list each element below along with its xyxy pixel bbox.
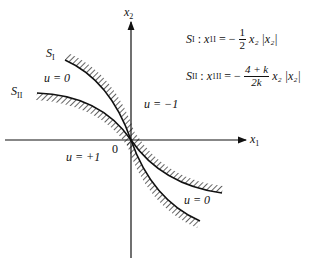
- curve-label-s1: SI: [46, 47, 55, 62]
- curve-label-s2: SII: [11, 85, 22, 100]
- x1-axis-label: x1: [250, 133, 259, 148]
- fraction-one-half: 1 2: [239, 27, 247, 51]
- origin-label: 0: [112, 143, 118, 155]
- region-label-u-minus-one: u = −1: [144, 98, 178, 110]
- phase-plane-diagram: [0, 0, 333, 269]
- fraction-4k-over-2k: 4 + k 2k: [244, 64, 269, 88]
- s2-lower-hatch: [131, 134, 223, 193]
- region-label-u-zero-lower: u = 0: [184, 194, 210, 206]
- region-label-u-zero-upper: u = 0: [44, 72, 70, 84]
- x2-axis-label: x2: [124, 6, 133, 21]
- formula-s2: SII : x1II = − 4 + k 2k x₂ |x₂|: [186, 64, 301, 88]
- formula-s1: SI : x1I = − 1 2 x₂ |x₂|: [186, 27, 278, 51]
- region-label-u-plus-one: u = +1: [66, 151, 100, 163]
